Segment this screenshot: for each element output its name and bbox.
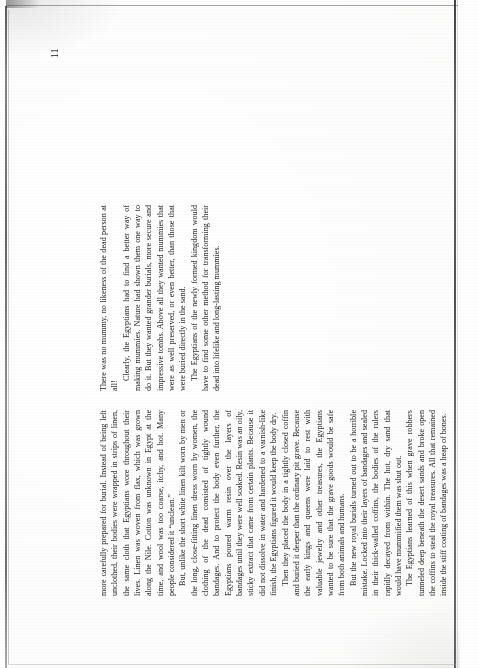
- text-column-left: more carefully prepared for burial. Inst…: [98, 410, 450, 596]
- paragraph: Then they placed the body in a tightly c…: [279, 410, 347, 596]
- printed-page-inner: 11 more carefully prepared for burial. I…: [40, 34, 440, 634]
- paragraph: But the new royal burials turned out to …: [347, 410, 404, 596]
- scanned-page-canvas: 11 more carefully prepared for burial. I…: [0, 0, 479, 668]
- page-edge-left-secondary: [8, 10, 9, 665]
- page-edge-left: [5, 6, 7, 668]
- page-number: 11: [51, 48, 61, 58]
- paragraph: The Egyptians learned of this when grave…: [404, 410, 449, 596]
- page-edge-bottom: [10, 664, 456, 665]
- scan-corner-smudge: [6, 0, 40, 8]
- text-column-right: There was no mummy, no likeness of the d…: [98, 205, 223, 391]
- paragraph: Clearly, the Egyptians had to find a bet…: [120, 205, 188, 391]
- page-edge-right-secondary: [457, 0, 458, 668]
- paragraph: The Egyptians of the newly formed kingdo…: [188, 205, 222, 391]
- page-edge-top: [6, 5, 458, 6]
- page-edge-right: [454, 0, 456, 668]
- paragraph: more carefully prepared for burial. Inst…: [98, 410, 177, 596]
- paragraph: There was no mummy, no likeness of the d…: [98, 205, 121, 391]
- printed-page: 11 more carefully prepared for burial. I…: [40, 34, 440, 634]
- paragraph: But, unlike the short white linen kilt w…: [177, 410, 279, 596]
